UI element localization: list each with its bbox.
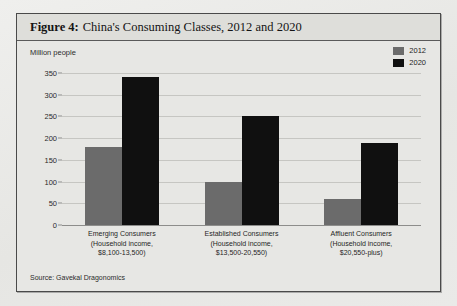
bar-2020: [242, 116, 279, 225]
chart-body: Million people 2012 2020 050100150200250…: [17, 41, 440, 291]
figure-number-label: Figure 4:: [30, 20, 79, 35]
bar-group: [62, 73, 182, 225]
bar-2020: [122, 77, 159, 225]
figure-panel: Figure 4: China's Consuming Classes, 201…: [16, 13, 441, 292]
x-axis-category-label: Affluent Consumers(Household income,$20,…: [301, 229, 421, 258]
figure-title-text: China's Consuming Classes, 2012 and 2020: [83, 20, 302, 35]
source-note: Source: Gavekal Dragonomics: [30, 274, 125, 281]
legend-label-2020: 2020: [409, 58, 426, 67]
plot-area: 050100150200250300350: [62, 73, 421, 226]
x-axis-category-labels: Emerging Consumers(Household income,$8,1…: [62, 229, 421, 258]
plot-wrapper: 050100150200250300350 Emerging Consumers…: [30, 69, 427, 291]
bar-group: [301, 73, 421, 225]
bar-groups: [62, 73, 421, 225]
legend-swatch-icon-2012: [393, 47, 404, 55]
legend-label-2012: 2012: [409, 46, 426, 55]
figure-title-bar: Figure 4: China's Consuming Classes, 201…: [17, 14, 440, 41]
bar-2020: [361, 143, 398, 226]
y-axis-tick-label: 350: [44, 69, 57, 78]
bar-2012: [205, 182, 242, 225]
y-axis-tick-label: 150: [44, 155, 57, 164]
x-axis-category-label: Established Consumers(Household income,$…: [182, 229, 302, 258]
bar-2012: [324, 199, 361, 225]
legend-item-2012: 2012: [393, 46, 426, 55]
legend-swatch-icon-2020: [393, 59, 404, 67]
legend-item-2020: 2020: [393, 58, 426, 67]
bar-2012: [85, 147, 122, 225]
chart-legend: 2012 2020: [393, 46, 426, 67]
y-axis-tick-label: 50: [49, 199, 57, 208]
x-axis-category-label: Emerging Consumers(Household income,$8,1…: [62, 229, 182, 258]
y-axis-unit-label: Million people: [30, 48, 76, 57]
y-axis-tick-label: 100: [44, 177, 57, 186]
y-axis-tick-label: 250: [44, 112, 57, 121]
bar-group: [182, 73, 302, 225]
y-axis-tick-label: 0: [53, 221, 57, 230]
y-axis-tick-label: 300: [44, 90, 57, 99]
y-axis-tick-label: 200: [44, 134, 57, 143]
